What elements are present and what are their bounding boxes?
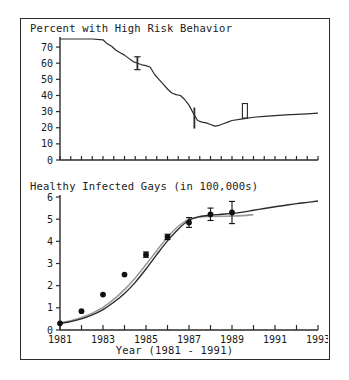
y-tick-label-bottom: 5 — [47, 214, 53, 225]
x-axis-title: Year (1981 - 1991) — [0, 344, 349, 356]
data-point-marker — [165, 234, 171, 240]
y-tick-label-bottom: 6 — [47, 192, 53, 203]
data-point-group — [208, 208, 214, 220]
data-point-group — [229, 201, 235, 223]
data-point-marker — [57, 320, 63, 326]
data-point-group — [79, 308, 85, 314]
y-tick-label-bottom: 1 — [47, 302, 53, 313]
y-tick-label-bottom: 2 — [47, 280, 53, 291]
y-tick-label-bottom: 3 — [47, 258, 53, 269]
figure-canvas: 010203040506070 012345619811983198519871… — [0, 0, 349, 380]
data-point-group — [122, 272, 128, 278]
data-point-group — [57, 320, 63, 326]
y-tick-label-bottom: 4 — [47, 236, 53, 247]
data-point-marker — [143, 252, 149, 258]
chart-title-healthy-infected-gays: Healthy Infected Gays (in 100,000s) — [30, 180, 258, 192]
series-line-model-gray — [60, 215, 254, 323]
data-point-marker — [186, 220, 192, 226]
data-point-marker — [122, 272, 128, 278]
data-point-group — [143, 252, 149, 258]
data-point-marker — [229, 210, 235, 216]
chart-title-high-risk-behavior: Percent with High Risk Behavior — [30, 22, 232, 34]
data-point-group — [100, 292, 106, 298]
data-point-marker — [79, 308, 85, 314]
data-point-marker — [100, 292, 106, 298]
data-point-marker — [208, 211, 214, 217]
